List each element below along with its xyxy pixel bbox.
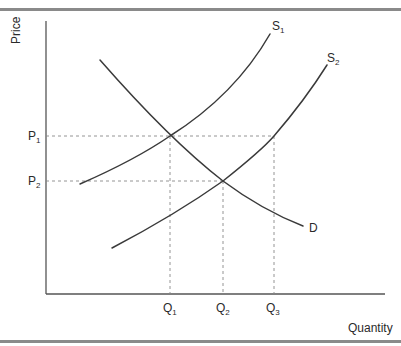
q1-label: Q1 xyxy=(163,301,177,317)
supply-2-label: S2 xyxy=(327,51,340,67)
p1-label: P1 xyxy=(28,129,41,145)
p2-label: P2 xyxy=(28,174,41,190)
supply-curve-1 xyxy=(80,34,270,184)
supply-1-label: S1 xyxy=(272,19,285,35)
supply-curve-2 xyxy=(112,65,327,248)
demand-label: D xyxy=(309,221,318,235)
q2-label: Q2 xyxy=(216,301,230,317)
x-axis-label: Quantity xyxy=(348,321,393,335)
y-axis-label: Price xyxy=(9,16,23,44)
demand-curve xyxy=(100,60,303,226)
q3-label: Q3 xyxy=(266,301,280,317)
supply-demand-diagram: Price Quantity S1 S2 D P1 P2 Q1 Q2 Q3 xyxy=(0,0,401,346)
guide-lines xyxy=(46,136,274,294)
